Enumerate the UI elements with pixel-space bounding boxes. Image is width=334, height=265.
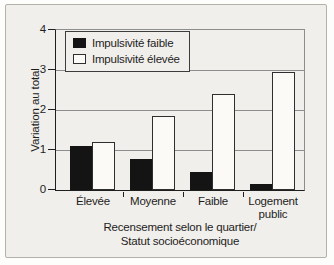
bar-filled-2	[130, 159, 153, 190]
y-axis-tick-4	[48, 29, 55, 31]
y-axis-tick-3	[48, 69, 55, 71]
y-tick-label-2: 2	[28, 103, 46, 115]
bar-open-3	[212, 94, 235, 190]
x-axis-title-line2: Statut socioéconomique	[55, 234, 305, 248]
x-axis-title-line1: Recensement selon le quartier/	[55, 220, 305, 234]
x-axis-title: Recensement selon le quartier/ Statut so…	[55, 220, 305, 248]
legend-item-impulsivite-faible: Impulsivité faible	[73, 37, 180, 49]
y-axis-tick-0	[48, 189, 55, 191]
bar-filled-1	[70, 146, 93, 190]
bar-open-2	[152, 116, 175, 190]
y-axis-tick-1	[48, 149, 55, 151]
legend-label-impulsivite-elevee: Impulsivité élevée	[92, 53, 180, 65]
legend-label-impulsivite-faible: Impulsivité faible	[92, 37, 173, 49]
legend-swatch-open-icon	[73, 54, 86, 64]
bar-filled-4	[250, 184, 273, 190]
legend: Impulsivité faible Impulsivité élevée	[65, 31, 190, 72]
bar-group-2	[130, 116, 175, 190]
bar-group-3	[190, 94, 235, 190]
legend-item-impulsivite-elevee: Impulsivité élevée	[73, 53, 180, 65]
bar-group-1	[70, 142, 115, 190]
legend-swatch-filled-icon	[73, 38, 86, 48]
bar-open-4	[272, 72, 295, 190]
y-axis-tick-2	[48, 109, 55, 111]
bar-open-1	[92, 142, 115, 190]
x-category-label-4: Logement public	[237, 195, 309, 221]
y-tick-label-4: 4	[28, 23, 46, 35]
figure-canvas: Variation au total Impulsivité faible Im…	[0, 0, 334, 265]
bar-filled-3	[190, 172, 213, 190]
bar-group-4	[250, 72, 295, 190]
y-tick-label-1: 1	[28, 143, 46, 155]
y-tick-label-0: 0	[28, 183, 46, 195]
y-tick-label-3: 3	[28, 63, 46, 75]
